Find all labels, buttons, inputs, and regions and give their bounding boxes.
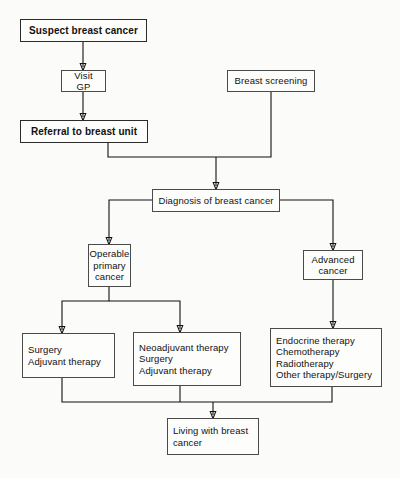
node-advanced-cancer[interactable]: Advanced cancer: [303, 250, 363, 280]
edge-screening-to-merge: [216, 92, 271, 157]
node-advanced-therapies[interactable]: Endocrine therapy Chemotherapy Radiother…: [270, 328, 382, 387]
edge-operable-to-surgery: [62, 287, 109, 330]
node-suspect-breast-cancer[interactable]: Suspect breast cancer: [20, 19, 147, 42]
connector-layer: [0, 0, 400, 478]
node-surgery-adjuvant-therapy[interactable]: Surgery Adjuvant therapy: [22, 333, 115, 378]
node-operable-primary-cancer[interactable]: Operable primary cancer: [88, 244, 131, 287]
edge-operable-to-neoadjuvant: [109, 301, 180, 329]
edge-diagnosis-to-advanced: [280, 200, 333, 247]
node-diagnosis-of-breast-cancer[interactable]: Diagnosis of breast cancer: [152, 189, 280, 212]
edge-diagnosis-to-operable: [109, 200, 152, 241]
node-neoadjuvant-therapy[interactable]: Neoadjuvant therapy Surgery Adjuvant the…: [133, 332, 241, 386]
edge-therapies-to-merge: [213, 387, 332, 402]
node-referral-to-breast-unit[interactable]: Referral to breast unit: [20, 120, 148, 143]
flowchart-canvas: Suspect breast cancer Visit GP Breast sc…: [0, 0, 400, 478]
node-visit-gp[interactable]: Visit GP: [61, 70, 106, 92]
node-living-with-breast-cancer[interactable]: Living with breast cancer: [167, 418, 259, 455]
node-breast-screening[interactable]: Breast screening: [227, 70, 315, 92]
edge-referral-to-merge: [108, 143, 216, 157]
